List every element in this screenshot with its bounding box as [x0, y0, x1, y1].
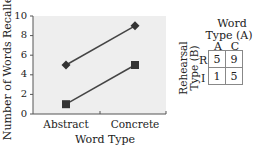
- table-cell: 5: [209, 51, 226, 68]
- table-row-title-b: Type (B): [186, 38, 202, 98]
- y-tick: 4: [13, 68, 27, 79]
- table-cell: 1: [209, 68, 226, 85]
- table-row-label-r: R: [199, 54, 207, 67]
- y-tick: 6: [13, 49, 27, 60]
- table-row-title-2: Type (B): [188, 45, 200, 90]
- y-tick: 10: [13, 10, 27, 21]
- y-tick: 0: [13, 108, 27, 119]
- table-row: 1 5: [209, 68, 243, 85]
- x-axis-label: Word Type: [65, 133, 145, 146]
- series-r: [62, 21, 140, 69]
- y-tick: 8: [13, 29, 27, 40]
- table-row-label-i: I: [201, 72, 205, 85]
- table-cell: 5: [226, 68, 243, 85]
- table-cell: 9: [226, 51, 243, 68]
- x-tick-abstract: Abstract: [36, 118, 96, 130]
- series-i: [62, 61, 139, 108]
- x-tick-concrete: Concrete: [105, 118, 165, 130]
- y-tick: 2: [13, 88, 27, 99]
- data-table: 5 9 1 5: [208, 50, 243, 85]
- table-row: 5 9: [209, 51, 243, 68]
